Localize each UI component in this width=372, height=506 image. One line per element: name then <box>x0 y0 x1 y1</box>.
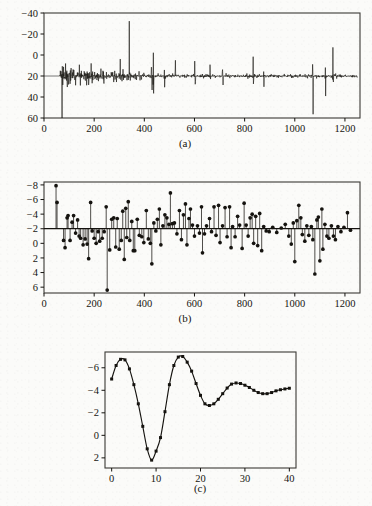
stem-marker <box>161 224 165 228</box>
stem-marker <box>210 230 214 234</box>
stem-marker <box>238 223 242 227</box>
stem-marker <box>283 223 287 227</box>
acf-marker <box>163 410 166 413</box>
stem-marker <box>242 201 246 205</box>
stem-marker <box>178 209 182 213</box>
stem-marker <box>156 217 160 221</box>
stem-marker <box>330 224 334 228</box>
stem-marker <box>79 236 83 240</box>
stem-marker <box>299 216 303 220</box>
stem-marker <box>159 243 163 247</box>
acf-marker <box>132 383 135 386</box>
stem-marker <box>203 232 207 236</box>
figure-container: 0200400600800100012006040200−20−40 (a) 0… <box>0 0 372 506</box>
stem-marker <box>90 229 94 233</box>
acf-marker <box>248 386 251 389</box>
acf-marker <box>252 389 255 392</box>
stem-marker <box>185 243 189 247</box>
stem-marker <box>300 233 304 237</box>
stem-marker <box>66 214 70 218</box>
y-tick-label: 20 <box>28 71 39 82</box>
stem-marker <box>252 241 256 245</box>
stem-marker <box>309 225 313 229</box>
panel-a-caption: (a) <box>160 137 210 149</box>
stem-marker <box>83 237 87 241</box>
stem-marker <box>305 224 309 228</box>
y-tick-label: 0 <box>33 238 38 249</box>
stem-marker <box>72 214 76 218</box>
stem-marker <box>311 238 315 242</box>
stem-marker <box>125 236 129 240</box>
stem-marker <box>240 247 244 251</box>
stem-marker <box>105 288 109 292</box>
stem-marker <box>92 236 96 240</box>
y-tick-label: −40 <box>22 8 38 19</box>
x-tick-label: 1200 <box>334 298 355 309</box>
stem-marker <box>297 204 301 208</box>
x-tick-label: 200 <box>86 298 102 309</box>
x-tick-label: 400 <box>136 298 152 309</box>
stem-marker <box>104 205 108 209</box>
y-tick-label: −4 <box>27 209 39 220</box>
acf-marker <box>195 382 198 385</box>
acf-marker <box>235 381 238 384</box>
stem-marker <box>342 225 346 229</box>
stem-marker <box>318 259 322 263</box>
x-tick-label: 0 <box>41 298 46 309</box>
acf-marker <box>115 364 118 367</box>
stem-marker <box>218 241 222 245</box>
stem-marker <box>87 257 91 261</box>
acf-marker <box>257 391 260 394</box>
stem-marker <box>122 258 126 262</box>
acf-marker <box>266 392 269 395</box>
panel-c-plot: 01020304020−2−4−6 <box>0 340 372 490</box>
stem-marker <box>279 226 283 230</box>
stem-marker <box>225 235 229 239</box>
stem-marker <box>180 238 184 242</box>
stem-marker <box>349 228 353 232</box>
stem-marker <box>214 233 218 237</box>
y-tick-label: 4 <box>33 267 39 278</box>
stem-marker <box>201 251 205 255</box>
acf-marker <box>150 459 153 462</box>
panel-c-caption: (c) <box>175 482 225 494</box>
acf-marker <box>172 364 175 367</box>
stem-marker <box>133 249 137 253</box>
stem-marker <box>295 219 299 223</box>
stem-marker <box>119 239 123 243</box>
stem-marker <box>54 184 58 188</box>
stem-marker <box>287 234 291 238</box>
stem-marker <box>140 235 144 239</box>
y-tick-label: −6 <box>88 362 99 373</box>
stem-marker <box>130 220 134 224</box>
stem-marker <box>124 206 128 210</box>
acf-marker <box>199 394 202 397</box>
panel-a: 0200400600800100012006040200−20−40 <box>0 0 372 150</box>
stem-marker <box>217 204 221 208</box>
y-tick-label: 40 <box>28 92 39 103</box>
acf-marker <box>230 383 233 386</box>
stem-marker <box>115 217 119 221</box>
stem-marker <box>321 247 325 251</box>
stem-marker <box>108 248 112 252</box>
acf-marker <box>217 398 220 401</box>
stem-marker <box>323 223 327 227</box>
stem-marker <box>233 235 237 239</box>
stem-marker <box>198 231 202 235</box>
stem-marker <box>165 216 169 220</box>
x-tick-label: 1000 <box>284 298 305 309</box>
acf-marker <box>208 404 211 407</box>
stem-marker <box>173 221 177 225</box>
acf-marker <box>212 402 215 405</box>
x-tick-label: 0 <box>109 473 114 484</box>
y-tick-label: −8 <box>27 180 38 191</box>
acf-marker <box>186 361 189 364</box>
acf-marker <box>155 450 158 453</box>
stem-marker <box>189 207 193 211</box>
stem-marker <box>293 260 297 264</box>
stem-marker <box>317 215 321 219</box>
stem-marker <box>152 221 156 225</box>
x-tick-label: 400 <box>136 123 152 134</box>
y-tick-label: 2 <box>33 253 38 264</box>
stem-marker <box>339 230 343 234</box>
